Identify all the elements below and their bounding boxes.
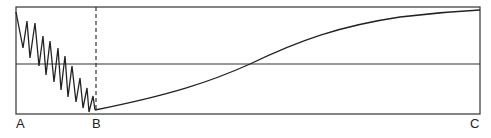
label-b: B — [92, 117, 101, 131]
label-c: C — [470, 117, 479, 131]
label-a: A — [16, 117, 25, 131]
sigmoid-curve — [95, 10, 480, 110]
waveform-diagram — [0, 0, 491, 138]
sawtooth-curve — [16, 12, 95, 112]
